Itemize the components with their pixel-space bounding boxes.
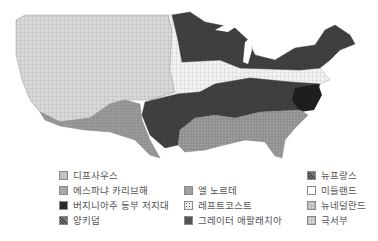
legend-label: 그레이터 애팔래치아	[198, 213, 282, 227]
legend-swatch	[59, 171, 68, 180]
us-cultural-regions-map	[0, 0, 378, 160]
legend-item: 에스파냐 카리브해	[59, 184, 148, 196]
legend-swatch	[307, 171, 316, 180]
legend-label: 에스파냐 카리브해	[73, 183, 148, 197]
legend-swatch	[307, 186, 316, 195]
legend-swatch	[307, 201, 316, 210]
legend-item: 레프트코스트	[184, 199, 252, 211]
legend-item: 디프사우스	[59, 169, 118, 181]
legend-item: 극서부	[307, 214, 348, 226]
legend-label: 뉴프랑스	[321, 168, 357, 182]
legend-item: 미들랜드	[307, 184, 357, 196]
legend-item: 버지니아주 동부 저지대	[59, 199, 169, 211]
legend-label: 극서부	[321, 213, 348, 227]
legend-label: 디프사우스	[73, 168, 118, 182]
legend-item: 양키덤	[59, 214, 100, 226]
legend-label: 레프트코스트	[198, 198, 252, 212]
legend-item: 뉴네덜란드	[307, 199, 366, 211]
legend-label: 미들랜드	[321, 183, 357, 197]
legend-swatch	[59, 216, 68, 225]
legend-item: 그레이터 애팔래치아	[184, 214, 282, 226]
legend-label: 버지니아주 동부 저지대	[73, 198, 169, 212]
legend-swatch	[184, 216, 193, 225]
legend-swatch	[59, 201, 68, 210]
legend-item: 엘 노르테	[184, 184, 237, 196]
legend-swatch	[184, 201, 193, 210]
legend-swatch	[59, 186, 68, 195]
legend-item: 뉴프랑스	[307, 169, 357, 181]
legend-swatch	[184, 186, 193, 195]
legend-label: 뉴네덜란드	[321, 198, 366, 212]
legend-label: 양키덤	[73, 213, 100, 227]
legend-swatch	[307, 216, 316, 225]
legend-label: 엘 노르테	[198, 183, 237, 197]
